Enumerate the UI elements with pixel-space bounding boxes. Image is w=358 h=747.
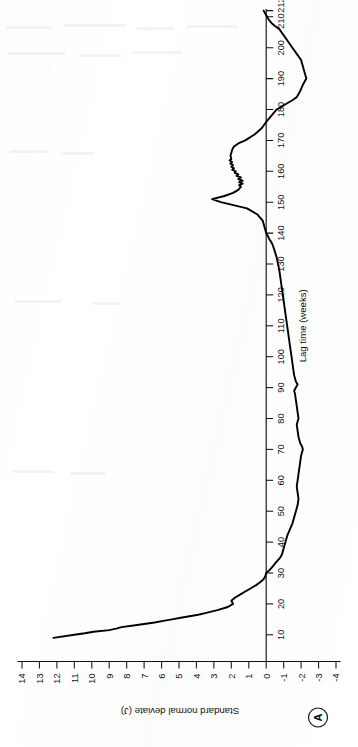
y-axis: 14 13 12 11 10 9 8 7 6 5 4 3 2 1 0 -1 -2… <box>17 661 341 716</box>
y-tick-label: 8 <box>122 673 132 678</box>
x-tick-label: 30 <box>276 567 286 577</box>
x-tick-label: 160 <box>276 163 286 178</box>
x-tick-label: 140 <box>276 225 286 240</box>
figure-panel-a: A <box>0 0 358 747</box>
y-tick-label: 10 <box>87 673 97 683</box>
y-tick-label: 12 <box>52 673 62 683</box>
y-tick-label: 3 <box>209 673 219 678</box>
x-tick-label: 210 <box>276 13 286 28</box>
x-tick-label: 10 <box>276 629 286 639</box>
x-tick-label: 150 <box>276 194 286 209</box>
x-tick-label: 120 <box>276 287 286 302</box>
x-tick-label: 50 <box>276 506 286 516</box>
y-tick-label: 14 <box>17 673 27 683</box>
x-tick-label: 110 <box>276 318 286 333</box>
panel-label-a: A <box>309 708 328 727</box>
y-tick-label: -2 <box>297 673 307 681</box>
x-tick-label: 200 <box>276 40 286 55</box>
y-tick-label: -3 <box>314 673 324 681</box>
x-axis-ticks <box>266 10 273 634</box>
y-tick-label: 7 <box>140 673 150 678</box>
y-tick-label: 13 <box>35 673 45 683</box>
y-tick-label: 1 <box>244 673 254 678</box>
y-tick-label: 2 <box>227 673 237 678</box>
y-axis-title: Standard normal deviate (J) <box>121 705 239 716</box>
x-tick-label: 60 <box>276 475 286 485</box>
line-chart: A <box>0 0 358 747</box>
y-tick-label: 9 <box>105 673 115 678</box>
data-series-line <box>53 10 306 637</box>
panel-label-text: A <box>312 713 324 721</box>
y-tick-label: -4 <box>331 673 341 681</box>
y-tick-label: -1 <box>279 673 289 681</box>
y-tick-label: 6 <box>157 673 167 678</box>
x-tick-label: 170 <box>276 132 286 147</box>
x-axis-title: Lag time (weeks) <box>297 289 308 362</box>
x-tick-label: 20 <box>276 598 286 608</box>
y-axis-tick-labels: 14 13 12 11 10 9 8 7 6 5 4 3 2 1 0 -1 -2… <box>17 673 341 683</box>
y-tick-label: 4 <box>192 673 202 678</box>
x-tick-label: 80 <box>276 413 286 423</box>
x-tick-label: 212 <box>276 0 286 12</box>
x-tick-label: 90 <box>276 382 286 392</box>
x-tick-label: 70 <box>276 444 286 454</box>
y-tick-label: 5 <box>174 673 184 678</box>
y-tick-label: 0 <box>262 673 272 678</box>
y-tick-label: 11 <box>70 673 80 683</box>
x-tick-label: 100 <box>276 349 286 364</box>
x-tick-label: 190 <box>276 70 286 85</box>
